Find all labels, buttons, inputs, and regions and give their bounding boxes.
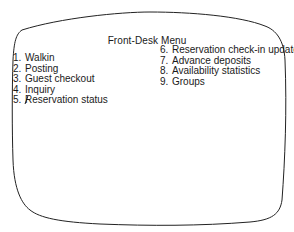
menu-item-groups[interactable]: 9. Groups [160,77,294,88]
menu-item-availability-statistics[interactable]: 8. Availability statistics [160,66,294,77]
menu-right-column: 6. Reservation check-in update 7. Advanc… [160,45,294,87]
menu-item-number: 9. [160,77,172,88]
menu-item-number: 5. [13,95,25,106]
menu-item-label: Guest checkout [25,74,94,85]
menu-item-reservation-check-in-update[interactable]: 6. Reservation check-in update [160,45,294,56]
menu-item-guest-checkout[interactable]: 3. Guest checkout [13,74,108,85]
menu-left-column: 1. Walkin 2. Posting 3. Guest checkout 4… [13,53,108,106]
menu-item-number: 3. [13,74,25,85]
menu-item-reservation-status[interactable]: 5. Reservation status [13,95,108,106]
menu-item-label: Reservation status [25,95,108,106]
menu-item-number: 6. [160,45,172,56]
menu-item-label: Availability statistics [172,66,260,77]
menu-item-label: Groups [172,77,205,88]
menu-item-number: 8. [160,66,172,77]
menu-item-number: 1. [13,53,25,64]
menu-item-label: Walkin [25,53,55,64]
menu-item-label: Reservation check-in update [172,45,294,56]
menu-item-walkin[interactable]: 1. Walkin [13,53,108,64]
